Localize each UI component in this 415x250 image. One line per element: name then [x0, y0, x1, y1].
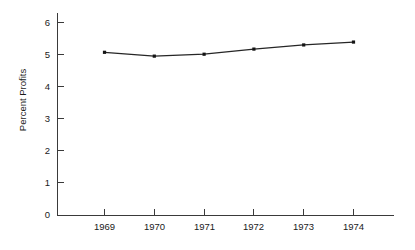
data-point-1969 [103, 51, 106, 54]
x-tick-label-1969: 1969 [94, 221, 115, 232]
y-tick-label-3: 3 [45, 113, 50, 124]
x-tick-label-1973: 1973 [293, 221, 314, 232]
chart-container: 6 5 4 3 2 1 0 1969 1970 1971 1972 1973 1… [0, 0, 415, 250]
chart-background [0, 0, 415, 250]
y-tick-label-4: 4 [45, 81, 50, 92]
y-tick-label-0: 0 [45, 209, 50, 220]
data-point-1971 [203, 53, 206, 56]
x-tick-label-1970: 1970 [144, 221, 165, 232]
data-point-1970 [153, 55, 156, 58]
y-tick-label-5: 5 [45, 49, 50, 60]
data-point-1973 [302, 43, 305, 46]
data-point-1974 [352, 40, 355, 43]
y-tick-label-2: 2 [45, 145, 50, 156]
line-chart: 6 5 4 3 2 1 0 1969 1970 1971 1972 1973 1… [0, 0, 415, 250]
y-tick-label-6: 6 [45, 17, 50, 28]
y-axis-title: Percent Profits [17, 69, 28, 132]
x-tick-label-1971: 1971 [194, 221, 215, 232]
data-point-1972 [252, 48, 255, 51]
y-tick-label-1: 1 [45, 177, 50, 188]
x-tick-label-1974: 1974 [343, 221, 364, 232]
x-tick-label-1972: 1972 [243, 221, 264, 232]
